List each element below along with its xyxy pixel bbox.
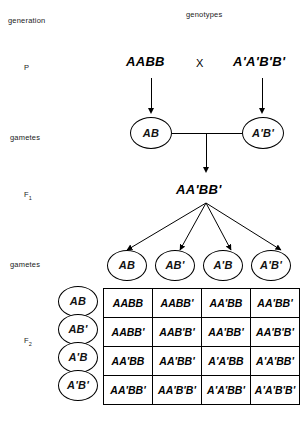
f1-gamete-label-3: A'B — [213, 260, 232, 271]
punnett-cell-r4c1: AA'BB' — [104, 376, 153, 405]
f1-gamete-label-4: A'B' — [260, 260, 282, 271]
punnett-cell-r3c4: A'A'BB' — [251, 347, 300, 376]
table-row: AABB' AAB'B' AA'BB' AA'B'B' — [104, 318, 300, 347]
row-label-f2-subscript: 2 — [29, 341, 32, 347]
table-row: AA'BB AA'BB' A'A'BB A'A'BB' — [104, 347, 300, 376]
f2-row-header-label-2: AB' — [68, 324, 87, 335]
punnett-cell-r4c3: A'A'BB' — [202, 376, 251, 405]
table-row: AA'BB' AA'B'B' A'A'BB' A'A'B'B' — [104, 376, 300, 405]
punnett-cell-r2c4: AA'B'B' — [251, 318, 300, 347]
punnett-cell-r4c4: A'A'B'B' — [251, 376, 300, 405]
f1-gamete-label-1: AB — [119, 260, 135, 271]
f1-gamete-circle-4: A'B' — [251, 250, 291, 281]
punnett-cell-r1c3: AA'BB — [202, 289, 251, 318]
f2-row-header-circle-4: A'B' — [58, 370, 98, 401]
f2-row-header-circle-3: A'B — [58, 342, 98, 373]
punnett-square-grid: AABB AABB' AA'BB AA'BB' AABB' AAB'B' AA'… — [103, 288, 300, 405]
punnett-cell-r3c2: AA'BB' — [153, 347, 202, 376]
punnett-cell-r3c1: AA'BB — [104, 347, 153, 376]
table-row: AABB AABB' AA'BB AA'BB' — [104, 289, 300, 318]
punnett-cell-r4c2: AA'B'B' — [153, 376, 202, 405]
f1-gamete-circle-1: AB — [107, 250, 147, 281]
f2-row-header-label-3: A'B — [68, 352, 87, 363]
f2-row-header-circle-2: AB' — [58, 314, 98, 345]
punnett-cell-r1c4: AA'BB' — [251, 289, 300, 318]
f1-gamete-circle-2: AB' — [155, 250, 195, 281]
row-label-gametes-2: gametes — [10, 260, 40, 269]
punnett-cell-r2c3: AA'BB' — [202, 318, 251, 347]
f2-row-header-label-1: AB — [70, 296, 86, 307]
punnett-cell-r1c1: AABB — [104, 289, 153, 318]
punnett-cell-r3c3: A'A'BB — [202, 347, 251, 376]
f2-row-header-circle-1: AB — [58, 286, 98, 317]
punnett-cell-r1c2: AABB' — [153, 289, 202, 318]
f2-row-header-label-4: A'B' — [67, 380, 89, 391]
genetics-cross-diagram: generation genotypes P AABB X A'A'B'B' g… — [0, 0, 308, 441]
f1-gamete-label-2: AB' — [165, 260, 184, 271]
row-label-f2: F2 — [24, 336, 32, 347]
punnett-cell-r2c2: AAB'B' — [153, 318, 202, 347]
f1-gamete-circle-3: A'B — [203, 250, 243, 281]
punnett-cell-r2c1: AABB' — [104, 318, 153, 347]
